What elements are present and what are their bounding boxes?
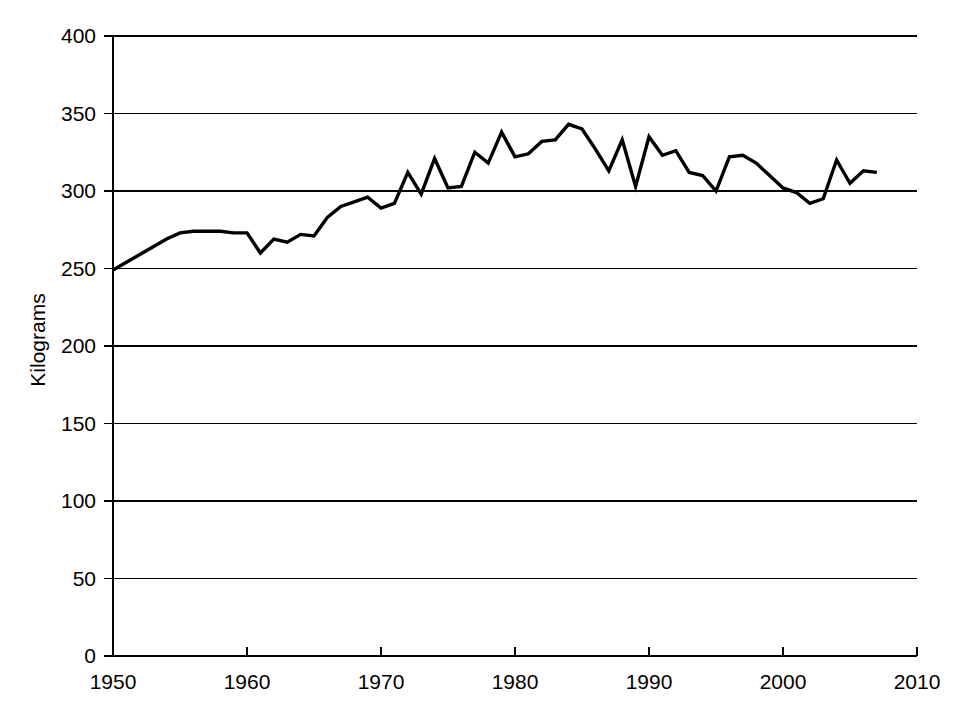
x-tick-label-1990: 1990 xyxy=(626,670,673,693)
y-tick-label-350: 350 xyxy=(61,102,96,125)
y-axis-title: Kilograms xyxy=(26,293,49,386)
x-tick-label-1980: 1980 xyxy=(492,670,539,693)
y-tick-label-200: 200 xyxy=(61,334,96,357)
gridlines xyxy=(113,36,917,656)
data-series-line xyxy=(113,124,877,270)
x-tick-label-1960: 1960 xyxy=(224,670,271,693)
x-axis-tick-labels: 1950196019701980199020002010 xyxy=(90,670,941,693)
chart-container: 050100150200250300350400 195019601970198… xyxy=(0,0,974,718)
y-tick-label-50: 50 xyxy=(73,567,96,590)
y-tick-label-300: 300 xyxy=(61,179,96,202)
y-axis-tick-labels: 050100150200250300350400 xyxy=(61,24,96,667)
line-chart: 050100150200250300350400 195019601970198… xyxy=(0,0,974,718)
x-tick-label-2000: 2000 xyxy=(760,670,807,693)
x-tick-label-2010: 2010 xyxy=(894,670,941,693)
y-tick-label-0: 0 xyxy=(84,644,96,667)
x-tick-label-1950: 1950 xyxy=(90,670,137,693)
y-tick-label-400: 400 xyxy=(61,24,96,47)
y-tick-label-100: 100 xyxy=(61,489,96,512)
y-tick-label-150: 150 xyxy=(61,412,96,435)
x-tick-label-1970: 1970 xyxy=(358,670,405,693)
y-tick-label-250: 250 xyxy=(61,257,96,280)
